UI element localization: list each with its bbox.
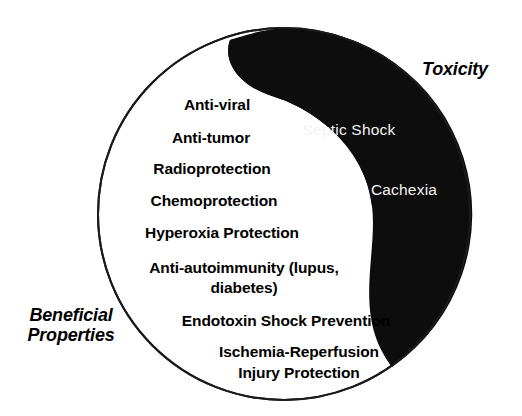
yin-yang-figure: Toxicity Beneficial Properties Anti-vira… [0, 0, 522, 416]
beneficial-item-ischemia-reperfusion-line1: Ischemia-Reperfusion [219, 343, 379, 360]
toxicity-item-cachexia: Cachexia [371, 181, 437, 198]
beneficial-item-anti-autoimmunity-line1: Anti-autoimmunity (lupus, [149, 259, 339, 276]
beneficial-item-anti-tumor: Anti-tumor [172, 129, 250, 146]
beneficial-item-endotoxin-shock-prevention: Endotoxin Shock Prevention [182, 312, 390, 329]
beneficial-item-anti-autoimmunity-line2: diabetes) [210, 279, 277, 296]
caption-beneficial-line2: Properties [27, 325, 114, 345]
beneficial-item-hyperoxia-protection: Hyperoxia Protection [145, 224, 299, 241]
caption-beneficial-properties: Beneficial Properties [27, 305, 114, 345]
beneficial-item-chemoprotection: Chemoprotection [151, 192, 278, 209]
caption-beneficial-line1: Beneficial [27, 305, 114, 325]
caption-toxicity-line1: Toxicity [422, 59, 488, 79]
beneficial-item-anti-viral: Anti-viral [184, 96, 250, 113]
toxicity-item-septic-shock: Septic Shock [303, 121, 396, 138]
caption-toxicity: Toxicity [422, 59, 488, 79]
beneficial-item-injury-protection-line2: Injury Protection [238, 364, 359, 381]
beneficial-item-radioprotection: Radioprotection [153, 160, 270, 177]
